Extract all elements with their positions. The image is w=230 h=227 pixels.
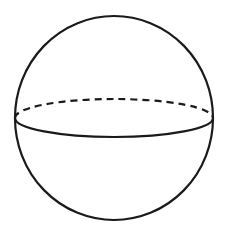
sphere-outline [15,16,213,220]
equator-front-solid [15,118,213,137]
equator-back-dashed [15,99,213,118]
sphere-diagram [0,0,230,227]
